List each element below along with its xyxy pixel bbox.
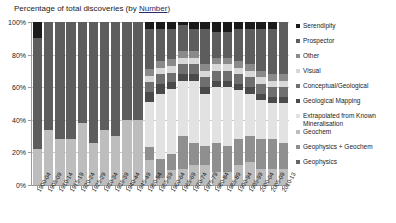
bar-column[interactable] xyxy=(122,22,131,185)
bar-column[interactable] xyxy=(212,22,221,185)
bar-segment xyxy=(223,87,232,146)
bar-segment xyxy=(200,77,209,87)
bar-column[interactable] xyxy=(279,22,288,185)
bar-segment xyxy=(178,64,187,74)
x-axis-tick: 1990-94 xyxy=(232,186,243,222)
bar-column[interactable] xyxy=(156,22,165,185)
bar-segment xyxy=(268,103,277,139)
x-axis-tick: 1985-89 xyxy=(221,186,232,222)
x-axis-tick: 1970-74 xyxy=(187,186,198,222)
bar-segment xyxy=(178,25,187,51)
legend-swatch-icon xyxy=(296,145,300,149)
y-axis-tick-label: 20% xyxy=(0,149,26,156)
bar-segment xyxy=(189,81,198,143)
stacked-bar-chart: Percentage of total discoveries (by Numb… xyxy=(0,0,396,223)
bar-column[interactable] xyxy=(111,22,120,185)
bar-segment xyxy=(156,84,165,94)
y-axis-tick-label: 40% xyxy=(0,116,26,123)
bar-column[interactable] xyxy=(245,22,254,185)
chart-title-close: ) xyxy=(167,4,170,13)
x-axis-tick: 2010-13 xyxy=(277,186,288,222)
bar-column[interactable] xyxy=(133,22,142,185)
bar-segment xyxy=(268,29,277,75)
bar-column[interactable] xyxy=(145,22,154,185)
bar-column[interactable] xyxy=(44,22,53,185)
bar-segment xyxy=(245,136,254,162)
legend-swatch-icon xyxy=(296,54,300,58)
bar-column[interactable] xyxy=(89,22,98,185)
bar-column[interactable] xyxy=(66,22,75,185)
bar-segment xyxy=(78,22,87,123)
bar-segment xyxy=(145,92,154,102)
legend-swatch-icon xyxy=(296,69,300,73)
legend-swatch-icon xyxy=(296,114,300,118)
bar-segment xyxy=(212,143,221,172)
bar-segment xyxy=(200,94,209,146)
bar-segment xyxy=(156,94,165,159)
bar-segment xyxy=(200,29,209,65)
legend-item-label: Prospector xyxy=(303,37,334,45)
legend-item-label: Serendipity xyxy=(303,22,336,30)
bar-segment xyxy=(167,89,176,154)
legend-swatch-icon xyxy=(296,160,300,164)
bar-segment xyxy=(279,103,288,142)
legend-item[interactable]: Geophysics + Geochem xyxy=(296,143,394,151)
bar-column[interactable] xyxy=(223,22,232,185)
bar-segment xyxy=(100,22,109,130)
legend-item[interactable]: Extrapolated from Known Mineralisation xyxy=(296,112,394,127)
bar-column[interactable] xyxy=(189,22,198,185)
legend-swatch-icon xyxy=(296,130,300,134)
bar-column[interactable] xyxy=(33,22,42,185)
bar-column[interactable] xyxy=(178,22,187,185)
bar-segment xyxy=(55,22,64,139)
bar-segment xyxy=(256,100,265,139)
x-axis-tick: 1940-44 xyxy=(120,186,131,222)
x-axis-tick: 1945-49 xyxy=(132,186,143,222)
bar-column[interactable] xyxy=(100,22,109,185)
legend-item[interactable]: Visual xyxy=(296,67,394,75)
bar-segment xyxy=(223,32,232,58)
bar-segment xyxy=(145,102,154,148)
bar-column[interactable] xyxy=(256,22,265,185)
bar-segment xyxy=(189,64,198,74)
bar-column[interactable] xyxy=(55,22,64,185)
bar-segment xyxy=(223,71,232,81)
legend-item-label: Conceptual/Geological xyxy=(303,82,368,90)
bar-segment xyxy=(122,22,131,120)
chart-title-link[interactable]: Number xyxy=(139,4,167,13)
chart-title: Percentage of total discoveries (by Numb… xyxy=(14,4,170,13)
bar-segment xyxy=(133,22,142,120)
legend-item[interactable]: Conceptual/Geological xyxy=(296,82,394,90)
x-axis-tick: 1925-29 xyxy=(87,186,98,222)
legend-swatch-icon xyxy=(296,84,300,88)
legend-swatch-icon xyxy=(296,24,300,28)
legend-item[interactable]: Geophysics xyxy=(296,158,394,166)
bar-segment xyxy=(212,87,221,142)
x-axis-tick: 1995-99 xyxy=(243,186,254,222)
bar-segment xyxy=(212,32,221,58)
y-axis-tick-label: 0% xyxy=(0,182,26,189)
legend-item-label: Other xyxy=(303,52,319,60)
x-axis-tick: 1960-64 xyxy=(165,186,176,222)
bar-column[interactable] xyxy=(268,22,277,185)
legend-item[interactable]: Prospector xyxy=(296,37,394,45)
chart-legend: SerendipityProspectorOtherVisualConceptu… xyxy=(296,22,394,173)
bar-column[interactable] xyxy=(234,22,243,185)
legend-swatch-icon xyxy=(296,39,300,43)
bar-segment xyxy=(245,94,254,136)
y-axis-tick-label: 60% xyxy=(0,84,26,91)
bar-column[interactable] xyxy=(78,22,87,185)
legend-item[interactable]: Serendipity xyxy=(296,22,394,30)
legend-item[interactable]: Geological Mapping xyxy=(296,97,394,105)
legend-item[interactable]: Other xyxy=(296,52,394,60)
x-axis-tick: 1980-84 xyxy=(210,186,221,222)
bar-segment xyxy=(200,146,209,166)
x-axis-tick: 1900-04 xyxy=(31,186,42,222)
bar-column[interactable] xyxy=(167,22,176,185)
bar-segment xyxy=(189,29,198,52)
bar-column[interactable] xyxy=(200,22,209,185)
x-axis-tick: 2000-04 xyxy=(254,186,265,222)
x-axis-tick: 1965-69 xyxy=(176,186,187,222)
x-axis-tick: 1910-14 xyxy=(53,186,64,222)
legend-item[interactable]: Geochem xyxy=(296,128,394,136)
